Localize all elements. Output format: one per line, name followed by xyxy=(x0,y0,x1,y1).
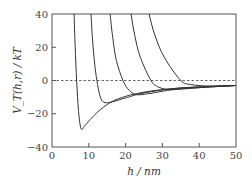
series-line-curve-3 xyxy=(110,4,236,95)
x-tick-labels: 01020304050 xyxy=(49,150,243,161)
potential-energy-chart: 01020304050 −40−2002040 h / nm V_T(h,r) … xyxy=(0,0,252,181)
y-tick-label: 20 xyxy=(35,42,48,53)
y-tick-label: −20 xyxy=(27,108,48,119)
series-line-curve-5 xyxy=(149,4,236,86)
x-tick-label: 0 xyxy=(49,150,55,161)
series-line-curve-2 xyxy=(91,4,236,103)
x-tick-label: 20 xyxy=(119,150,132,161)
y-tick-label: 40 xyxy=(35,9,48,20)
axis-ticks xyxy=(52,47,199,147)
x-tick-label: 30 xyxy=(156,150,169,161)
series-line-curve-4 xyxy=(131,4,236,90)
y-tick-label: 0 xyxy=(42,75,48,86)
y-axis-title: V_T(h,r) / kT xyxy=(11,46,24,114)
series-line-curve-1 xyxy=(74,4,236,130)
y-tick-labels: −40−2002040 xyxy=(27,9,48,153)
y-tick-label: −40 xyxy=(27,142,48,153)
x-tick-label: 40 xyxy=(193,150,206,161)
x-tick-label: 10 xyxy=(82,150,95,161)
data-series xyxy=(74,4,236,130)
x-tick-label: 50 xyxy=(230,150,243,161)
x-axis-title: h / nm xyxy=(127,165,161,177)
